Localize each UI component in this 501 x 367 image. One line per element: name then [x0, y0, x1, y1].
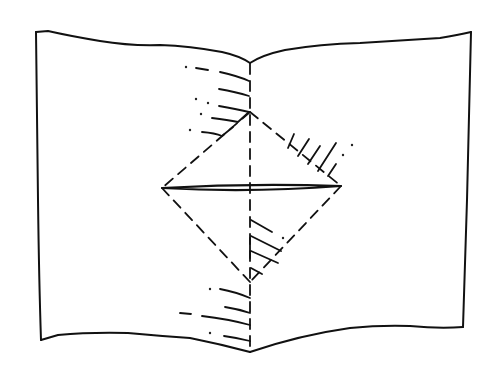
- hatching-lower-center: [250, 220, 284, 274]
- left-page: [36, 31, 250, 352]
- hatching-upper-left: [185, 66, 249, 136]
- hatching-lower-left: [180, 288, 250, 341]
- diamond-fold: [162, 112, 341, 282]
- diagram-canvas: open sheet folded along center spine wit…: [0, 0, 501, 367]
- center-slit: [162, 185, 341, 190]
- folded-sheet-sketch: [0, 0, 501, 367]
- right-page: [250, 32, 471, 352]
